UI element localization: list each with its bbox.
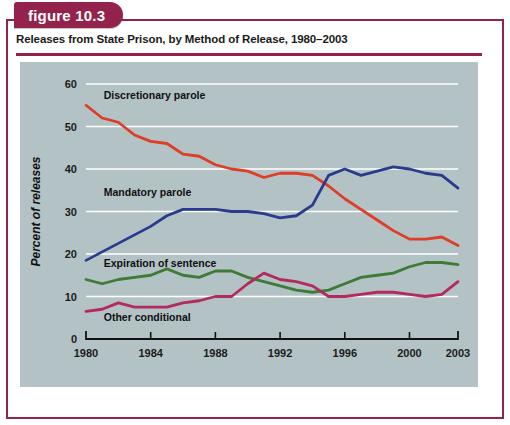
series-line xyxy=(86,273,458,311)
y-tick-label: 30 xyxy=(65,206,77,218)
figure-title: Releases from State Prison, by Method of… xyxy=(16,33,476,45)
title-divider-rule xyxy=(16,53,482,56)
series-label: Expiration of sentence xyxy=(104,257,217,269)
x-tick-label: 1988 xyxy=(203,347,227,359)
x-tick-label: 2003 xyxy=(446,347,470,359)
y-tick-label: 20 xyxy=(65,248,77,260)
series-label: Other conditional xyxy=(104,311,191,323)
y-axis-tick-labels: 0102030405060 xyxy=(65,78,77,345)
x-tick-label: 1984 xyxy=(138,347,163,359)
x-axis-tick-labels: 1980198419881992199620002003 xyxy=(74,347,470,359)
series-label: Mandatory parole xyxy=(104,186,192,198)
x-tick-label: 1992 xyxy=(268,347,292,359)
y-tick-label: 10 xyxy=(65,291,77,303)
data-series-lines xyxy=(86,105,458,311)
axis-spine xyxy=(86,331,458,339)
y-tick-label: 40 xyxy=(65,163,77,175)
figure-number-label: figure 10.3 xyxy=(28,7,105,24)
series-line xyxy=(86,167,458,261)
y-axis-title: Percent of releases xyxy=(29,156,43,266)
chart-axes xyxy=(86,331,458,339)
figure-root: figure 10.3 Releases from State Prison, … xyxy=(0,0,510,425)
y-tick-label: 60 xyxy=(65,78,77,90)
x-axis-tick-marks xyxy=(151,332,410,339)
x-tick-label: 1996 xyxy=(333,347,357,359)
line-chart-svg: 0102030405060 19801984198819921996200020… xyxy=(20,62,478,387)
x-tick-label: 1980 xyxy=(74,347,98,359)
chart-plot-panel: 0102030405060 19801984198819921996200020… xyxy=(20,62,478,387)
series-label: Discretionary parole xyxy=(104,89,206,101)
y-tick-label: 50 xyxy=(65,121,77,133)
figure-number-tab: figure 10.3 xyxy=(14,2,123,28)
x-tick-label: 2000 xyxy=(397,347,421,359)
y-tick-label: 0 xyxy=(71,333,77,345)
y-axis-title-text: Percent of releases xyxy=(29,156,43,266)
